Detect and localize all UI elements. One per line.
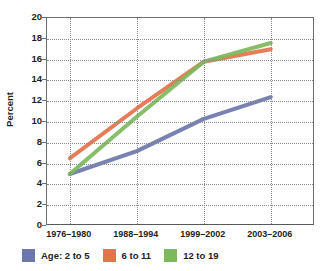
gridline-horizontal: [47, 80, 313, 81]
y-axis-tick-label: 14: [18, 74, 42, 84]
gridline-horizontal: [47, 164, 313, 165]
y-axis-tick-label: 10: [18, 116, 42, 126]
gridline-horizontal: [47, 60, 313, 61]
y-axis-tick-mark: [42, 225, 46, 226]
gridline-horizontal: [47, 205, 313, 206]
y-axis-title: Percent: [4, 92, 15, 127]
legend-swatch-icon: [22, 249, 35, 262]
legend-item-label: Age: 2 to 5: [41, 250, 90, 261]
y-axis-tick-label: 16: [18, 54, 42, 64]
y-axis-tick-label: 6: [18, 158, 42, 168]
gridline-vertical: [204, 18, 205, 224]
gridline-vertical: [271, 18, 272, 224]
legend-item[interactable]: Age: 2 to 5: [22, 249, 90, 262]
y-axis-tick-label: 20: [18, 12, 42, 22]
legend-item-label: 6 to 11: [122, 250, 152, 261]
chart-legend: Age: 2 to 56 to 1112 to 19: [22, 249, 232, 262]
gridline-horizontal: [47, 184, 313, 185]
plot-area: [46, 17, 314, 225]
gridline-vertical: [137, 18, 138, 224]
legend-item[interactable]: 6 to 11: [103, 249, 152, 262]
x-axis-tick-label: 1976–1980: [46, 229, 91, 239]
y-axis-tick-label: 0: [18, 220, 42, 230]
gridline-horizontal: [47, 143, 313, 144]
chart-figure: Percent 20181614121086420 1976–19801988–…: [0, 0, 330, 271]
legend-item[interactable]: 12 to 19: [164, 249, 218, 262]
x-axis-tick-label: 1999–2002: [180, 229, 225, 239]
gridline-horizontal: [47, 101, 313, 102]
y-axis-tick-label: 8: [18, 137, 42, 147]
y-axis-tick-label: 2: [18, 199, 42, 209]
gridline-vertical: [70, 18, 71, 224]
y-axis-tick-label: 12: [18, 95, 42, 105]
legend-swatch-icon: [103, 249, 116, 262]
y-axis-tick-label: 4: [18, 178, 42, 188]
gridline-horizontal: [47, 39, 313, 40]
y-axis-tick-label: 18: [18, 33, 42, 43]
x-axis-tick-label: 2003–2006: [247, 229, 292, 239]
legend-swatch-icon: [164, 249, 177, 262]
legend-item-label: 12 to 19: [183, 250, 218, 261]
x-axis-tick-label: 1988–1994: [113, 229, 158, 239]
gridline-horizontal: [47, 122, 313, 123]
